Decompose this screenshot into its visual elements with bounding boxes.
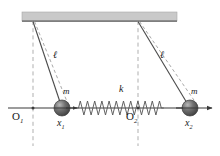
coord-left-subscript: 1 (61, 123, 64, 130)
label-origin-left: O1 (12, 111, 23, 125)
right-pendulum-rod (138, 22, 190, 109)
right-length-indicator-line (140, 22, 197, 104)
label-origin-right: O2 (126, 111, 137, 125)
label-length-right: ℓ (160, 50, 164, 60)
ceiling-support (22, 12, 177, 21)
label-spring-constant: k (119, 84, 123, 94)
coupled-pendulum-figure: ℓ ℓ m m k O1 O2 x1 x2 (0, 0, 220, 156)
label-length-left: ℓ (53, 50, 57, 60)
origin-left-point (32, 107, 35, 110)
coord-right-subscript: 2 (189, 123, 192, 130)
label-coord-right: x2 (185, 118, 193, 130)
origin-left-letter: O (12, 110, 20, 122)
origin-right-letter: O (126, 110, 134, 122)
origin-right-subscript: 2 (134, 117, 137, 124)
origin-left-subscript: 1 (20, 117, 23, 124)
diagram-canvas (0, 0, 220, 156)
left-pendulum-rod (33, 22, 62, 109)
label-mass-left: m (63, 87, 70, 96)
left-pendulum (33, 21, 77, 146)
label-coord-left: x1 (57, 118, 65, 130)
label-mass-right: m (191, 87, 198, 96)
ceiling-bar (22, 12, 177, 21)
